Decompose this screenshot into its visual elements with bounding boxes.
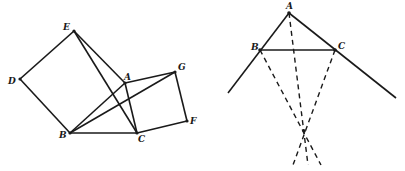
segment-AG — [125, 72, 175, 83]
dashed-line-from-C — [293, 50, 335, 165]
point-C-right — [333, 48, 337, 52]
point-B-right — [258, 48, 262, 52]
dashed-line-from-B — [260, 50, 321, 165]
label-C-right: C — [338, 41, 346, 51]
point-G — [173, 70, 176, 73]
point-E — [72, 29, 75, 32]
segment-AB — [70, 83, 125, 133]
label-B: B — [58, 130, 67, 140]
label-D: D — [7, 76, 16, 86]
label-C: C — [138, 134, 146, 144]
segment-EA — [74, 31, 125, 83]
ray-A-right — [289, 13, 396, 98]
left-figure: E D A G F B C — [7, 22, 197, 144]
point-D — [18, 77, 21, 80]
dashed-line-from-A — [289, 13, 308, 165]
label-A-right: A — [285, 1, 293, 11]
intersection-point — [302, 129, 306, 133]
segment-FC — [137, 121, 187, 133]
diagram-canvas: E D A G F B C A B C — [0, 0, 405, 171]
right-figure: A B C — [228, 1, 396, 165]
segment-DE — [20, 31, 74, 79]
segment-GF — [175, 72, 187, 121]
geometry-figures: E D A G F B C A B C — [0, 0, 405, 171]
label-B-right: B — [250, 42, 259, 52]
segment-DB — [20, 79, 70, 133]
label-A: A — [123, 72, 131, 82]
label-G: G — [178, 62, 186, 72]
segment-AC — [125, 83, 137, 133]
point-F — [185, 119, 188, 122]
label-E: E — [62, 22, 70, 32]
point-A-right — [287, 11, 291, 15]
label-F: F — [189, 116, 197, 126]
ray-A-left — [228, 13, 289, 93]
point-B — [68, 131, 71, 134]
